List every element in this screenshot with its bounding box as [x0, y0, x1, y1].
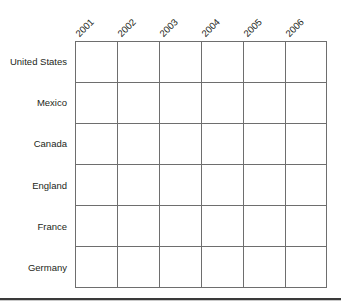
- footer-divider-shadow: [0, 300, 341, 301]
- grid-cell[interactable]: [160, 165, 201, 205]
- row-header-united-states: United States: [0, 41, 71, 82]
- grid-cell[interactable]: [244, 124, 285, 164]
- data-grid[interactable]: [75, 41, 327, 288]
- grid-cell[interactable]: [244, 165, 285, 205]
- column-header-label: 2003: [158, 17, 180, 39]
- row-header-england: England: [0, 165, 71, 206]
- grid-cell[interactable]: [76, 83, 117, 123]
- column-header-label: 2005: [242, 17, 264, 39]
- grid-cell[interactable]: [118, 83, 159, 123]
- grid-cell[interactable]: [76, 42, 117, 82]
- grid-cell[interactable]: [286, 206, 326, 246]
- grid-cell[interactable]: [244, 42, 285, 82]
- grid-cell[interactable]: [244, 206, 285, 246]
- grid-cell[interactable]: [160, 124, 201, 164]
- column-header-label: 2002: [116, 17, 138, 39]
- chart-canvas: 2001 2002 2003 2004 2005 2006 United Sta…: [0, 0, 341, 308]
- grid-cell[interactable]: [244, 83, 285, 123]
- grid-cell[interactable]: [160, 247, 201, 287]
- grid-cell[interactable]: [202, 83, 243, 123]
- column-header-label: 2004: [200, 17, 222, 39]
- grid-cell[interactable]: [160, 42, 201, 82]
- grid-cell[interactable]: [118, 124, 159, 164]
- grid-cell[interactable]: [202, 42, 243, 82]
- row-header-germany: Germany: [0, 247, 71, 288]
- grid-cell[interactable]: [286, 42, 326, 82]
- grid-cell[interactable]: [202, 165, 243, 205]
- row-header-canada: Canada: [0, 123, 71, 164]
- grid-cell[interactable]: [76, 247, 117, 287]
- grid-cell[interactable]: [118, 247, 159, 287]
- grid-cell[interactable]: [160, 206, 201, 246]
- column-header-label: 2006: [284, 17, 306, 39]
- column-header-label: 2001: [74, 17, 96, 39]
- row-header-column: United States Mexico Canada England Fran…: [0, 41, 71, 288]
- grid-cell[interactable]: [118, 165, 159, 205]
- grid-cell[interactable]: [286, 83, 326, 123]
- grid-cell[interactable]: [118, 42, 159, 82]
- grid-cell[interactable]: [286, 165, 326, 205]
- grid-cell[interactable]: [76, 206, 117, 246]
- grid-cell[interactable]: [244, 247, 285, 287]
- grid-cell[interactable]: [202, 124, 243, 164]
- grid-cell[interactable]: [76, 165, 117, 205]
- row-header-france: France: [0, 206, 71, 247]
- grid-cell[interactable]: [286, 124, 326, 164]
- grid-cell[interactable]: [160, 83, 201, 123]
- row-header-mexico: Mexico: [0, 82, 71, 123]
- grid-cell[interactable]: [118, 206, 159, 246]
- grid-cell[interactable]: [76, 124, 117, 164]
- grid-cell[interactable]: [202, 247, 243, 287]
- grid-cell[interactable]: [202, 206, 243, 246]
- grid-cell[interactable]: [286, 247, 326, 287]
